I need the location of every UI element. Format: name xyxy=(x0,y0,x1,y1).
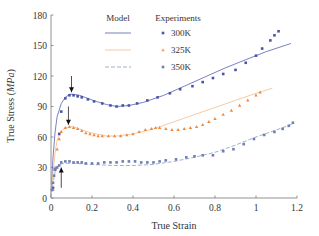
data-point xyxy=(162,32,165,35)
x-tick-label: 1 xyxy=(254,203,259,213)
data-point xyxy=(175,158,178,161)
legend-marker-300K xyxy=(162,32,165,35)
data-point xyxy=(201,154,204,157)
data-point xyxy=(277,30,280,33)
data-point xyxy=(246,99,249,102)
data-point xyxy=(93,100,96,103)
data-point xyxy=(176,128,179,131)
data-point xyxy=(80,161,83,164)
experiments-325k-series xyxy=(51,90,261,191)
data-point xyxy=(76,95,79,98)
data-point xyxy=(169,92,172,95)
legend-label-300K: 300K xyxy=(171,28,192,38)
data-point xyxy=(263,134,266,137)
data-point xyxy=(158,160,161,163)
legend-label-350K: 350K xyxy=(171,62,192,72)
data-point xyxy=(273,131,276,134)
data-point xyxy=(212,77,215,80)
data-point xyxy=(53,174,56,177)
x-tick-label: 0.4 xyxy=(127,203,139,213)
data-point xyxy=(222,73,225,76)
data-point xyxy=(101,102,104,105)
data-point xyxy=(146,161,149,164)
data-point xyxy=(109,161,112,164)
x-axis-label: True Strain xyxy=(152,220,197,231)
data-point xyxy=(244,61,247,64)
data-point xyxy=(234,69,237,72)
data-point xyxy=(115,161,118,164)
data-point xyxy=(269,39,272,42)
data-point xyxy=(97,162,100,165)
axes: 00.20.40.60.811.20306090120150180 xyxy=(33,11,303,214)
data-point xyxy=(140,161,143,164)
data-point xyxy=(121,104,124,107)
data-point xyxy=(292,121,295,124)
data-point xyxy=(152,161,155,164)
model-350k-series xyxy=(51,124,293,198)
data-point xyxy=(60,161,63,164)
data-point xyxy=(136,102,139,105)
experiments-300k-series xyxy=(52,30,280,189)
x-tick-label: 0.6 xyxy=(168,203,180,213)
data-point xyxy=(58,164,61,167)
data-point xyxy=(273,34,276,37)
data-point xyxy=(213,117,216,120)
data-point xyxy=(185,156,188,159)
data-point xyxy=(85,162,88,165)
chart-canvas: 00.20.40.60.811.20306090120150180 ModelE… xyxy=(0,0,319,236)
y-tick-label: 180 xyxy=(33,11,48,21)
data-point xyxy=(189,126,192,129)
data-point xyxy=(52,181,55,184)
data-point xyxy=(109,104,112,107)
data-point xyxy=(230,109,233,112)
data-point xyxy=(51,189,54,192)
data-point xyxy=(76,161,79,164)
data-point xyxy=(128,160,131,163)
arrow-down-icon xyxy=(66,107,71,125)
data-point xyxy=(222,150,225,153)
data-point xyxy=(207,120,210,123)
data-point xyxy=(144,128,147,131)
data-point xyxy=(72,161,75,164)
data-point xyxy=(212,154,215,157)
arrow-down-icon xyxy=(69,76,74,92)
data-point xyxy=(222,113,225,116)
data-point xyxy=(72,94,75,97)
data-point xyxy=(238,104,241,107)
x-tick-label: 0 xyxy=(49,203,54,213)
data-point xyxy=(91,162,94,165)
legend-model-header: Model xyxy=(106,13,130,23)
y-tick-label: 0 xyxy=(42,194,47,204)
legend-experiments-header: Experiments xyxy=(155,13,201,23)
data-point xyxy=(87,98,90,101)
data-point xyxy=(162,66,165,69)
data-point xyxy=(201,123,204,126)
y-tick-label: 90 xyxy=(38,102,48,112)
y-tick-label: 30 xyxy=(38,163,48,173)
y-tick-label: 150 xyxy=(33,41,48,51)
data-point xyxy=(60,110,63,113)
data-point xyxy=(68,94,71,97)
data-point xyxy=(165,159,168,162)
data-point xyxy=(128,104,131,107)
data-point xyxy=(68,160,71,163)
legend-marker-350K xyxy=(162,66,165,69)
data-point xyxy=(232,148,235,151)
data-point xyxy=(64,160,67,163)
legend-label-325K: 325K xyxy=(171,45,192,55)
x-tick-label: 0.8 xyxy=(209,203,221,213)
y-tick-label: 60 xyxy=(38,133,48,143)
y-axis-label: True Stress (MPa) xyxy=(5,69,17,143)
data-point xyxy=(156,96,159,99)
data-point xyxy=(281,128,284,131)
data-point xyxy=(179,88,182,91)
data-point xyxy=(195,125,198,128)
data-point xyxy=(103,161,106,164)
data-point xyxy=(146,99,149,102)
data-point xyxy=(261,47,264,50)
data-point xyxy=(115,105,118,108)
stress-strain-chart: 00.20.40.60.811.20306090120150180 ModelE… xyxy=(0,0,319,236)
data-point xyxy=(150,127,153,130)
data-point xyxy=(137,130,140,133)
data-point xyxy=(201,81,204,84)
